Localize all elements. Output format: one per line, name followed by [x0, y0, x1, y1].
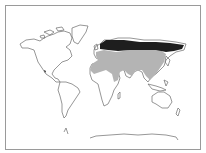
south-america-outline: [58, 82, 80, 118]
australia-outline: [152, 92, 172, 108]
british-isles-outline: [94, 44, 98, 50]
south-georgia-outline: [64, 128, 68, 134]
antarctica-outline: [90, 134, 178, 140]
arctic-islands-outline: [40, 27, 64, 38]
madagascar-outline: [118, 92, 120, 99]
world-map: [0, 0, 206, 153]
new-zealand-outline: [176, 108, 180, 116]
southeast-asia-islands-outline: [148, 80, 168, 91]
greenland-outline: [72, 25, 88, 44]
north-america-outline: [20, 31, 72, 82]
